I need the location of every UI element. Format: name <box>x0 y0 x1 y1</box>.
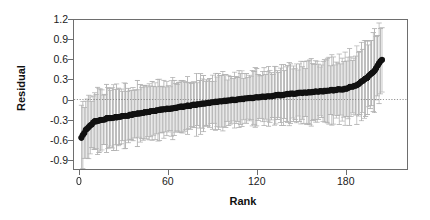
y-tick-label: 0.6 <box>53 54 68 64</box>
y-tick-label: -0.3 <box>50 115 68 125</box>
x-axis-title: Rank <box>173 195 313 207</box>
residual-caterpillar-plot <box>74 20 407 169</box>
x-tick-mark <box>257 170 258 175</box>
x-tick-label: 0 <box>59 176 99 187</box>
y-tick-label: -0.6 <box>50 135 68 145</box>
y-tick-mark <box>68 39 73 40</box>
y-axis-ticklabels: -0.9-0.6-0.300.30.60.91.2 <box>30 0 68 220</box>
chart-figure: -0.9-0.6-0.300.30.60.91.2 Residual Rank … <box>0 0 430 220</box>
y-tick-mark <box>68 160 73 161</box>
y-tick-mark <box>68 120 73 121</box>
x-tick-mark <box>346 170 347 175</box>
x-tick-mark <box>79 170 80 175</box>
x-tick-label: 60 <box>148 176 188 187</box>
y-tick-label: -0.9 <box>50 155 68 165</box>
y-tick-mark <box>68 59 73 60</box>
x-tick-label: 180 <box>326 176 366 187</box>
y-tick-label: 1.2 <box>53 14 68 24</box>
y-tick-label: 0.9 <box>53 34 68 44</box>
y-tick-mark <box>68 140 73 141</box>
plot-area <box>73 19 408 170</box>
x-tick-mark <box>168 170 169 175</box>
y-tick-mark <box>68 19 73 20</box>
y-axis-title: Residual <box>15 53 27 123</box>
x-tick-label: 120 <box>237 176 277 187</box>
y-tick-mark <box>68 79 73 80</box>
y-tick-label: 0.3 <box>53 74 68 84</box>
y-tick-mark <box>68 100 73 101</box>
